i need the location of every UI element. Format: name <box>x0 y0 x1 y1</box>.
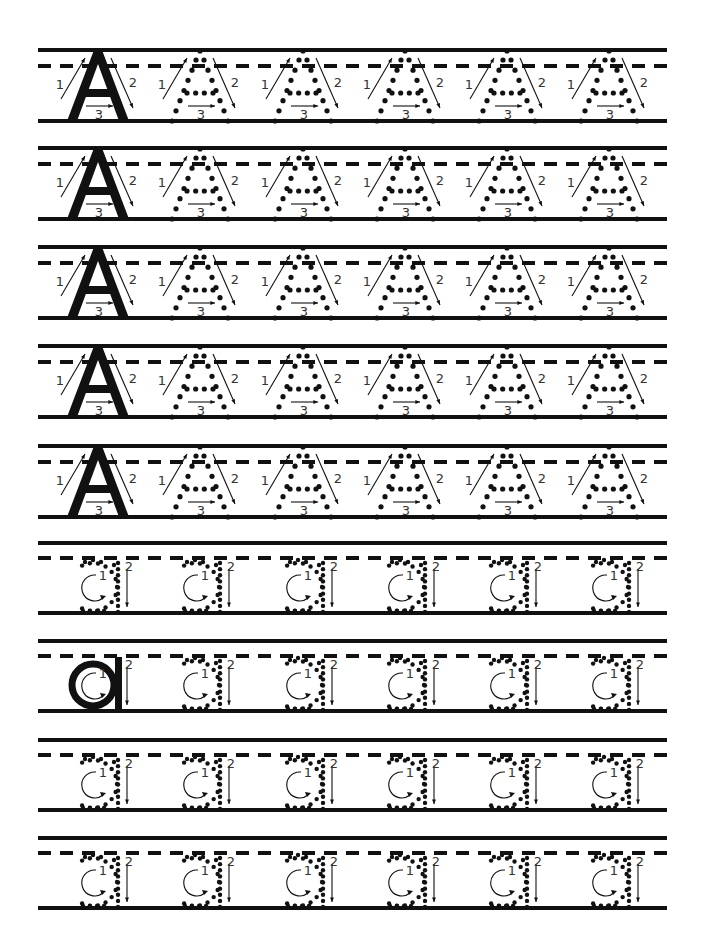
stroke-number-label: 3 <box>606 107 614 122</box>
stroke-number-label: 1 <box>99 568 107 583</box>
tracing-letter-a: 12 <box>591 558 644 614</box>
stroke-number-label: 3 <box>197 205 205 220</box>
tracing-letter-A: 123 <box>465 245 546 320</box>
stroke-number-label: 1 <box>261 274 269 289</box>
tracing-letter-a: 12 <box>182 656 235 712</box>
stroke-number-label: 2 <box>330 657 338 672</box>
stroke-number-label: 2 <box>129 272 137 287</box>
tracing-letter-a: 12 <box>80 853 133 909</box>
stroke-number-label: 3 <box>95 304 103 319</box>
stroke-number-label: 2 <box>432 756 440 771</box>
stroke-number-label: 1 <box>261 77 269 92</box>
stroke-number-label: 2 <box>129 173 137 188</box>
stroke-number-label: 2 <box>231 272 239 287</box>
stroke-number-label: 3 <box>95 403 103 418</box>
stroke-number-label: 2 <box>636 756 644 771</box>
tracing-letter-a: 12 <box>489 558 542 614</box>
tracing-letter-A: 123 <box>158 344 239 419</box>
baseline <box>38 415 667 419</box>
stroke-number-label: 3 <box>606 304 614 319</box>
stroke-number-label: 1 <box>261 373 269 388</box>
stroke-number-label: 1 <box>363 175 371 190</box>
model-letter-A: 123 <box>56 446 137 518</box>
stroke-number-label: 2 <box>436 173 444 188</box>
handwriting-worksheet: 1231231231231231231231231231231231231231… <box>0 0 701 949</box>
stroke-number-label: 2 <box>636 559 644 574</box>
tracing-letter-A: 123 <box>363 344 444 419</box>
baseline <box>38 217 667 221</box>
model-letter-a: 12 <box>72 657 133 711</box>
stroke-number-label: 3 <box>300 107 308 122</box>
top-guide-line <box>38 738 667 742</box>
top-guide-line <box>38 146 667 150</box>
stroke-number-label: 2 <box>231 371 239 386</box>
stroke-number-label: 1 <box>406 666 414 681</box>
stroke-number-label: 1 <box>465 373 473 388</box>
stroke-number-label: 3 <box>300 304 308 319</box>
tracing-letter-A: 123 <box>261 444 342 519</box>
stroke-number-label: 3 <box>300 503 308 518</box>
top-guide-line <box>38 836 667 840</box>
tracing-letter-a: 12 <box>285 656 338 712</box>
stroke-number-label: 2 <box>231 173 239 188</box>
stroke-number-label: 3 <box>300 403 308 418</box>
stroke-number-label: 1 <box>201 765 209 780</box>
stroke-number-label: 2 <box>640 272 648 287</box>
stroke-number-label: 3 <box>300 205 308 220</box>
model-letter-A: 123 <box>56 50 137 122</box>
stroke-number-label: 1 <box>99 863 107 878</box>
stroke-number-label: 2 <box>129 471 137 486</box>
stroke-number-label: 2 <box>640 173 648 188</box>
stroke-number-label: 1 <box>363 77 371 92</box>
tracing-letter-A: 123 <box>567 444 648 519</box>
stroke-number-label: 2 <box>330 854 338 869</box>
tracing-letter-A: 123 <box>363 245 444 320</box>
top-guide-line <box>38 444 667 448</box>
stroke-number-label: 1 <box>406 568 414 583</box>
stroke-number-label: 2 <box>436 371 444 386</box>
stroke-number-label: 2 <box>436 75 444 90</box>
baseline <box>38 611 667 615</box>
stroke-number-label: 3 <box>606 205 614 220</box>
tracing-letter-a: 12 <box>182 853 235 909</box>
stroke-number-label: 3 <box>95 503 103 518</box>
tracing-letter-a: 12 <box>387 755 440 811</box>
stroke-number-label: 2 <box>538 471 546 486</box>
tracing-letter-A: 123 <box>158 146 239 221</box>
stroke-number-label: 3 <box>504 107 512 122</box>
stroke-number-label: 2 <box>538 371 546 386</box>
stroke-number-label: 2 <box>125 756 133 771</box>
baseline <box>38 515 667 519</box>
stroke-number-label: 2 <box>534 854 542 869</box>
tracing-letter-A: 123 <box>465 444 546 519</box>
stroke-number-label: 1 <box>567 373 575 388</box>
stroke-number-label: 1 <box>158 373 166 388</box>
stroke-number-label: 1 <box>158 175 166 190</box>
stroke-number-label: 2 <box>538 173 546 188</box>
stroke-number-label: 1 <box>610 765 618 780</box>
stroke-number-label: 2 <box>534 657 542 672</box>
tracing-letter-a: 12 <box>387 558 440 614</box>
stroke-number-label: 2 <box>227 559 235 574</box>
model-letter-A: 123 <box>56 247 137 319</box>
baseline <box>38 808 667 812</box>
tracing-letter-a: 12 <box>285 558 338 614</box>
tracing-letter-A: 123 <box>363 444 444 519</box>
tracing-letter-A: 123 <box>567 146 648 221</box>
stroke-number-label: 1 <box>508 666 516 681</box>
stroke-number-label: 1 <box>304 568 312 583</box>
stroke-number-label: 1 <box>567 274 575 289</box>
stroke-number-label: 2 <box>125 559 133 574</box>
stroke-number-label: 2 <box>125 657 133 672</box>
baseline <box>38 906 667 910</box>
practice-row-7: 121212121212 <box>0 641 701 721</box>
stroke-number-label: 1 <box>406 765 414 780</box>
stroke-number-label: 3 <box>504 503 512 518</box>
tracing-letter-A: 123 <box>567 344 648 419</box>
stroke-number-label: 1 <box>56 77 64 92</box>
stroke-number-label: 1 <box>610 568 618 583</box>
stroke-number-label: 1 <box>304 863 312 878</box>
tracing-letter-A: 123 <box>465 48 546 123</box>
stroke-number-label: 2 <box>640 371 648 386</box>
stroke-number-label: 1 <box>363 274 371 289</box>
